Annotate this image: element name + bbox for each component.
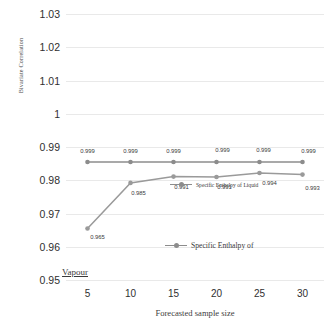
plot-area: 1.031.021.0110.990.980.970.960.95 510152… [66, 14, 324, 280]
legend-marker-icon [170, 181, 192, 188]
x-axis-tick-label: 10 [125, 288, 136, 299]
data-point-label: 0.999 [166, 148, 181, 154]
x-axis-tick-label: 30 [297, 288, 308, 299]
series-marker [300, 160, 305, 165]
series-marker [128, 160, 133, 165]
y-axis-tick-label: 0.96 [40, 241, 60, 253]
legend-marker-icon [165, 242, 187, 249]
series-marker [257, 160, 262, 165]
legend-label: Specific Enthalpy of [191, 241, 253, 250]
series-marker [214, 160, 219, 165]
x-axis-tick-label: 20 [211, 288, 222, 299]
data-point-label: 0.999 [80, 148, 95, 154]
y-axis-tick-label: 1 [54, 108, 60, 120]
y-axis-tick-label: 1.02 [40, 41, 60, 53]
y-axis-tick-label: 0.97 [40, 208, 60, 220]
series-marker [257, 171, 262, 176]
series-marker [171, 160, 176, 165]
series-marker [214, 175, 219, 180]
gridline [66, 280, 324, 281]
legend-label: Specific Enthalpy of Liquid [196, 182, 258, 188]
data-point-label: 0.999 [301, 148, 316, 154]
data-point-label: 0.999 [215, 147, 230, 153]
chart-canvas: Bivariate Correlation 1.031.021.0110.990… [0, 0, 331, 331]
data-point-label: 0.999 [256, 147, 271, 153]
y-axis-title: Bivariate Correlation [17, 6, 24, 126]
series-marker [171, 174, 176, 179]
y-axis-tick-label: 1.01 [40, 75, 60, 87]
series-marker [128, 181, 133, 186]
y-axis-tick-label: 0.98 [40, 174, 60, 186]
x-axis-tick-label: 25 [254, 288, 265, 299]
data-point-label: 0.999 [123, 148, 138, 154]
legend-item-specific-enthalpy-of-liquid[interactable]: Specific Enthalpy of Liquid [170, 181, 258, 188]
data-point-label: 0.985 [131, 190, 146, 196]
legend-label-wrapped-vapour: Vapour [62, 267, 88, 277]
x-axis-title: Forecasted sample size [66, 308, 324, 318]
x-axis-tick-label: 15 [168, 288, 179, 299]
data-point-label: 0.993 [305, 185, 320, 191]
y-axis-tick-label: 1.03 [40, 8, 60, 20]
x-axis-tick-label: 5 [85, 288, 91, 299]
data-point-label: 0.965 [90, 234, 105, 240]
series-marker [85, 226, 90, 231]
y-axis-tick-label: 0.95 [40, 274, 60, 286]
legend-item-specific-enthalpy-of-vapour[interactable]: Specific Enthalpy of [165, 241, 253, 250]
series-marker [300, 172, 305, 177]
data-point-label: 0.994 [262, 180, 277, 186]
series-marker [85, 160, 90, 165]
y-axis-tick-label: 0.99 [40, 141, 60, 153]
